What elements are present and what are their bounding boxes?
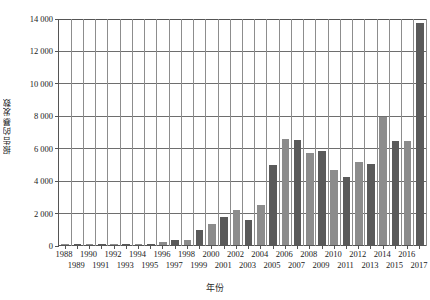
bar-1991	[98, 244, 106, 245]
y-axis-tick-label: 6 000	[34, 144, 53, 154]
gridline-vertical	[328, 19, 329, 246]
gridline-vertical	[95, 19, 96, 246]
x-axis-tick-label-2017: 2017	[410, 260, 427, 270]
gridline-vertical	[352, 19, 353, 246]
bar-1995	[147, 244, 155, 245]
y-axis-tick-label: 10 000	[30, 79, 53, 89]
gridline-vertical	[291, 19, 292, 246]
gridline-vertical	[218, 19, 219, 246]
x-axis-tick-label-2014: 2014	[374, 249, 391, 259]
bar-2015	[392, 141, 400, 245]
x-axis-tick-label-2010: 2010	[325, 249, 342, 259]
gridline-vertical	[144, 19, 145, 246]
bar-2001	[220, 217, 228, 245]
gridline-vertical	[169, 19, 170, 246]
x-axis-tick-label-2006: 2006	[276, 249, 293, 259]
y-axis-tick-label: 12 000	[30, 46, 53, 56]
x-axis-tick-label-2016: 2016	[398, 249, 415, 259]
bar-2002	[233, 210, 241, 245]
y-axis-tick-mark	[55, 51, 59, 52]
bar-2013	[367, 164, 375, 245]
gridline-vertical	[107, 19, 108, 246]
x-axis-tick-label-1990: 1990	[80, 249, 97, 259]
gridline-vertical	[377, 19, 378, 246]
bar-2016	[404, 141, 412, 245]
x-axis-title: 年份	[0, 281, 430, 294]
gridline-vertical	[340, 19, 341, 246]
y-axis-tick-label: 14 000	[30, 14, 53, 24]
gridline-vertical	[230, 19, 231, 246]
gridline-vertical	[266, 19, 267, 246]
x-axis-tick-label-1997: 1997	[166, 260, 183, 270]
gridline-vertical	[71, 19, 72, 246]
x-axis-tick-label-1988: 1988	[56, 249, 73, 259]
gridline-vertical	[426, 19, 427, 246]
x-axis-tick-label-1998: 1998	[178, 249, 195, 259]
bar-1999	[196, 230, 204, 245]
x-axis-tick-label-1999: 1999	[190, 260, 207, 270]
y-axis-tick-mark	[55, 83, 59, 84]
y-axis-tick-label: 4 000	[34, 176, 53, 186]
bar-1997	[171, 240, 179, 245]
y-axis-tick-mark	[55, 116, 59, 117]
gridline-vertical	[242, 19, 243, 246]
plot-area	[58, 19, 426, 246]
gridline-vertical	[205, 19, 206, 246]
x-axis-tick-label-2013: 2013	[361, 260, 378, 270]
x-axis-tick-label-1992: 1992	[105, 249, 122, 259]
x-axis-tick-labels: 1988198919901991199219931994199519961997…	[58, 249, 426, 279]
y-axis-tick-labels: 02 0004 0006 0008 00010 00012 00014 000	[16, 12, 56, 250]
x-axis-tick-label-2012: 2012	[349, 249, 366, 259]
gridline-vertical	[132, 19, 133, 246]
x-axis-tick-label-2004: 2004	[251, 249, 268, 259]
gridline-vertical	[156, 19, 157, 246]
x-axis-tick-label-2009: 2009	[313, 260, 330, 270]
bar-1993	[122, 244, 130, 245]
bar-1990	[86, 244, 94, 245]
x-axis-tick-label-1991: 1991	[92, 260, 109, 270]
gridline-vertical	[303, 19, 304, 246]
bar-1989	[74, 244, 82, 245]
gridline-vertical	[254, 19, 255, 246]
bar-1988	[61, 244, 69, 245]
gridline-vertical	[83, 19, 84, 246]
gridline-vertical	[120, 19, 121, 246]
bar-2004	[257, 205, 265, 245]
bar-2006	[282, 139, 290, 245]
bar-2008	[306, 153, 314, 245]
x-axis-tick-label-1994: 1994	[129, 249, 146, 259]
bar-1998	[184, 240, 192, 245]
x-axis-tick-label-1993: 1993	[117, 260, 134, 270]
bar-2014	[379, 117, 387, 245]
y-axis-title-text: 报告的暴发数	[2, 97, 14, 154]
y-axis-tick-mark	[55, 181, 59, 182]
gridline-vertical	[315, 19, 316, 246]
gridline-vertical	[389, 19, 390, 246]
bar-2007	[294, 140, 302, 245]
y-axis-tick-label: 2 000	[34, 209, 53, 219]
y-axis-title: 报告的暴发数	[0, 0, 16, 250]
bar-2017	[416, 23, 424, 245]
gridline-vertical	[364, 19, 365, 246]
gridline-vertical	[401, 19, 402, 246]
y-axis-tick-mark	[55, 246, 59, 247]
y-axis-tick-label: 8 000	[34, 111, 53, 121]
x-axis-tick-label-2015: 2015	[386, 260, 403, 270]
x-axis-tick-label-2011: 2011	[337, 260, 354, 270]
x-axis-tick-label-1995: 1995	[141, 260, 158, 270]
y-axis-tick-label: 0	[49, 241, 53, 251]
gridline-vertical	[193, 19, 194, 246]
y-axis-tick-mark	[55, 213, 59, 214]
bar-1994	[135, 244, 143, 245]
x-axis-tick-label-2008: 2008	[300, 249, 317, 259]
x-axis-title-text: 年份	[206, 283, 224, 293]
bar-2009	[318, 151, 326, 245]
x-axis-tick-label-2005: 2005	[264, 260, 281, 270]
bar-2003	[245, 220, 253, 245]
y-axis-tick-mark	[55, 148, 59, 149]
bar-1992	[110, 244, 118, 245]
x-axis-tick-label-2007: 2007	[288, 260, 305, 270]
x-axis-tick-label-2001: 2001	[215, 260, 232, 270]
bar-2011	[343, 177, 351, 245]
x-axis-tick-label-2003: 2003	[239, 260, 256, 270]
